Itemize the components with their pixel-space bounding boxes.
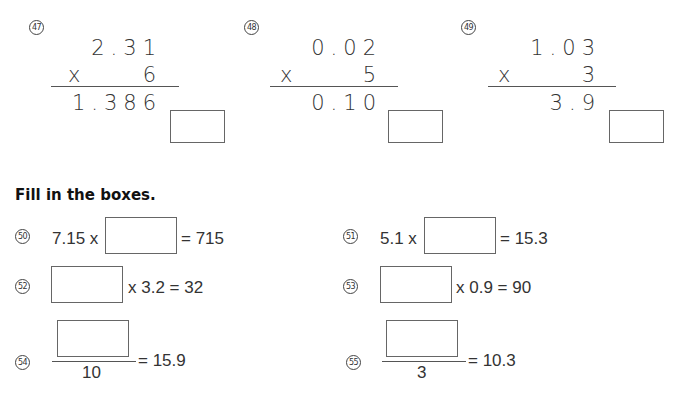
answer-box[interactable] xyxy=(380,266,452,303)
multiplier: 6 xyxy=(60,63,162,87)
sum-line xyxy=(270,86,398,87)
equation-right: = 10.3 xyxy=(468,351,516,371)
multiplier: 5 xyxy=(270,63,382,87)
denominator: 3 xyxy=(417,363,426,383)
equation-right: x 3.2 = 32 xyxy=(128,278,203,298)
answer-box[interactable] xyxy=(386,320,458,357)
answer-box[interactable] xyxy=(170,110,225,143)
multiplicand: 1.03 xyxy=(490,36,601,60)
question-number: 52 xyxy=(15,279,30,294)
answer-box[interactable] xyxy=(424,217,496,254)
question-number: 50 xyxy=(15,229,30,244)
section-title: Fill in the boxes. xyxy=(15,186,156,204)
question-number: 48 xyxy=(244,20,259,35)
sum-line xyxy=(488,86,616,87)
question-number: 49 xyxy=(461,20,476,35)
equation-right: x 0.9 = 90 xyxy=(456,278,531,298)
fraction-bar xyxy=(382,361,466,362)
answer-box[interactable] xyxy=(57,320,129,357)
equation-left: 5.1 x xyxy=(380,229,417,249)
answer-box[interactable] xyxy=(51,266,123,303)
answer-box[interactable] xyxy=(609,110,664,143)
equation-left: 7.15 x xyxy=(52,229,98,249)
answer-box[interactable] xyxy=(388,110,443,143)
question-number: 54 xyxy=(15,355,30,370)
partial-answer: 0.10 xyxy=(270,91,382,115)
question-number: 55 xyxy=(346,355,361,370)
sum-line xyxy=(51,86,179,87)
question-number: 53 xyxy=(343,279,358,294)
fraction-bar xyxy=(52,361,136,362)
multiplicand: 2.31 xyxy=(60,36,162,60)
equation-right: = 15.9 xyxy=(138,351,186,371)
multiplier: 3 xyxy=(490,63,601,87)
question-number: 47 xyxy=(29,20,44,35)
equation-right: = 15.3 xyxy=(500,229,548,249)
denominator: 10 xyxy=(82,363,101,383)
multiplicand: 0.02 xyxy=(270,36,382,60)
partial-answer: 1.386 xyxy=(60,91,162,115)
partial-answer: 3.9 xyxy=(490,91,601,115)
answer-box[interactable] xyxy=(105,217,177,254)
equation-right: = 715 xyxy=(181,229,224,249)
question-number: 51 xyxy=(343,229,358,244)
